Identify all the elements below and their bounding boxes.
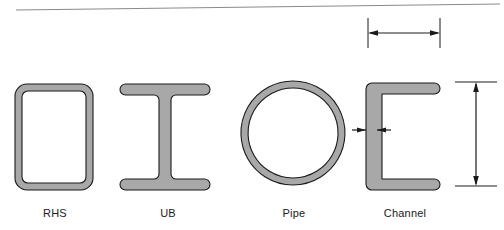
section-shape-rhs: [15, 84, 93, 190]
diagram-canvas: RHS UB Pipe Channel: [0, 0, 504, 230]
top-border-rule-line: [16, 4, 500, 10]
section-shape-channel: [366, 83, 440, 190]
section-label-ub: UB: [160, 207, 176, 219]
width-dimension-arrowhead-right: [430, 30, 440, 36]
section-label-pipe: Pipe: [283, 207, 306, 219]
steel-sections-figure: [0, 0, 504, 230]
width-dimension: [368, 18, 440, 48]
section-shape-ub: [120, 84, 210, 190]
section-label-channel: Channel: [384, 207, 426, 219]
height-dimension-arrowhead-top: [473, 82, 479, 92]
thickness-dimension-arrowhead-left: [357, 127, 366, 132]
height-dimension-arrowhead-bottom: [473, 176, 479, 186]
height-dimension: [455, 82, 497, 186]
width-dimension-arrowhead-left: [368, 30, 378, 36]
section-label-rhs: RHS: [43, 207, 67, 219]
section-shape-pipe: [241, 81, 345, 185]
